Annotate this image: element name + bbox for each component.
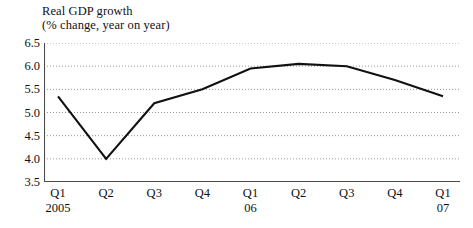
x-axis-tick-quarter: Q1: [46, 186, 71, 201]
x-axis-tick: Q12005: [46, 186, 71, 216]
x-axis-tick: Q4: [387, 186, 402, 201]
chart-title-block: Real GDP growth (% change, year on year): [42, 4, 170, 32]
chart-subtitle: (% change, year on year): [42, 18, 170, 32]
x-axis-tick: Q106: [243, 186, 258, 216]
x-axis-tick: Q107: [435, 186, 450, 216]
y-axis-tick-label: 6.5: [6, 36, 40, 51]
y-axis-tick-label: 5.0: [6, 105, 40, 120]
y-axis-tick-label: 6.0: [6, 59, 40, 74]
page-title: Real GDP growth: [42, 4, 170, 18]
x-axis-tick: Q2: [98, 186, 113, 201]
y-axis-tick-label: 5.5: [6, 82, 40, 97]
x-axis-tick: Q3: [147, 186, 162, 201]
x-axis-tick-quarter: Q2: [291, 186, 306, 201]
x-axis-tick-quarter: Q1: [435, 186, 450, 201]
x-axis-tick-year: 06: [243, 201, 258, 216]
x-axis-tick-quarter: Q2: [98, 186, 113, 201]
y-axis-labels: 6.56.05.55.04.54.03.5: [0, 0, 40, 228]
y-axis-tick-label: 4.0: [6, 151, 40, 166]
y-axis-tick-label: 3.5: [6, 175, 40, 190]
gdp-growth-figure: Real GDP growth (% change, year on year)…: [0, 0, 473, 228]
y-axis-tick-label: 4.5: [6, 128, 40, 143]
x-axis-tick-quarter: Q1: [243, 186, 258, 201]
chart-canvas: [44, 43, 460, 182]
x-axis-tick: Q2: [291, 186, 306, 201]
plot-area: [44, 43, 460, 182]
x-axis-tick-quarter: Q4: [195, 186, 210, 201]
gridlines: [44, 43, 460, 159]
x-axis-labels: Q12005Q2Q3Q4Q106Q2Q3Q4Q107: [44, 186, 460, 226]
data-series-line: [58, 64, 443, 159]
x-axis-tick-quarter: Q4: [387, 186, 402, 201]
x-axis-tick-year: 2005: [46, 201, 71, 216]
x-axis-tick-quarter: Q3: [147, 186, 162, 201]
x-axis-tick: Q3: [339, 186, 354, 201]
x-axis-tick-year: 07: [435, 201, 450, 216]
x-axis-tick-quarter: Q3: [339, 186, 354, 201]
x-axis-tick: Q4: [195, 186, 210, 201]
